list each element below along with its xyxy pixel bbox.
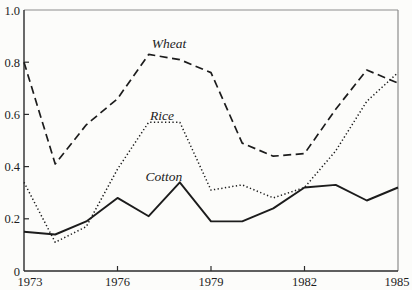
y-tick-label-0.6: 0.6 [4,108,20,122]
x-tick-label-1976: 1976 [105,275,130,289]
cotton-series-label: Cotton [146,169,183,184]
line-chart-canvas: 1.00.80.60.40.2019731976197919821985Whea… [0,0,412,290]
rice-line [24,73,398,243]
x-tick-label-1973: 1973 [18,275,43,289]
y-tick-label-0.8: 0.8 [4,56,20,70]
y-tick-label-1.0: 1.0 [4,4,20,18]
y-tick-label-0.2: 0.2 [4,212,20,226]
wheat-line [24,54,398,164]
x-tick-label-1982: 1982 [292,275,317,289]
rice-series-label: Rice [149,108,174,123]
x-tick-label-1979: 1979 [199,275,224,289]
crop-price-line-chart: 1.00.80.60.40.2019731976197919821985Whea… [0,0,412,290]
x-tick-label-1985: 1985 [385,275,410,289]
wheat-series-label: Wheat [152,36,188,51]
y-tick-label-0.4: 0.4 [4,160,20,174]
